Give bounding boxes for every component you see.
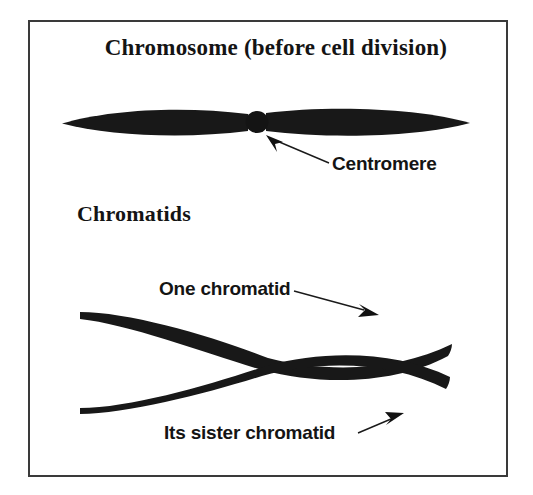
label-one-chromatid: One chromatid: [159, 279, 290, 298]
page-title: Chromosome (before cell division): [70, 36, 482, 59]
figure-border: [28, 20, 508, 477]
section-heading-chromatids: Chromatids: [77, 203, 191, 225]
figure-page: Chromosome (before cell division) Centro…: [0, 0, 533, 495]
label-sister-chromatid: Its sister chromatid: [164, 423, 335, 442]
label-centromere: Centromere: [332, 154, 437, 173]
